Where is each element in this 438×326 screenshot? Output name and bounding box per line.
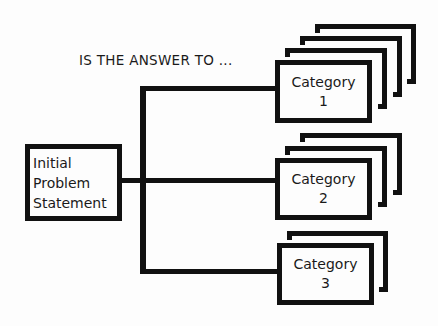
category-label: Category [292, 170, 356, 189]
initial-problem-box: Initial Problem Statement [25, 144, 122, 221]
category-number: 1 [319, 92, 328, 111]
category-number: 2 [319, 189, 328, 208]
connector-category-3 [140, 269, 278, 274]
root-line-2: Problem [33, 173, 90, 193]
category-label: Category [294, 255, 358, 274]
diagram-heading: IS THE ANSWER TO ... [79, 52, 233, 68]
category-3-box: Category 3 [277, 243, 374, 305]
category-number: 3 [321, 274, 330, 293]
root-line-1: Initial [33, 153, 72, 173]
connector-category-1 [140, 86, 278, 91]
category-label: Category [292, 73, 356, 92]
connector-category-2 [140, 178, 278, 183]
root-line-3: Statement [33, 193, 107, 213]
category-1-box: Category 1 [275, 60, 372, 123]
category-2-box: Category 2 [275, 158, 372, 220]
